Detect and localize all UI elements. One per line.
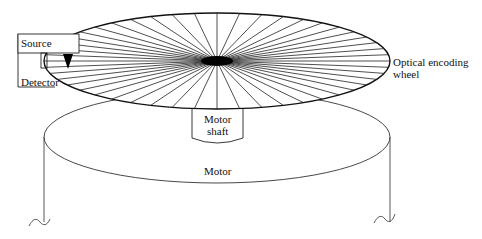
source-label: Source <box>21 37 52 49</box>
optical-encoding-wheel <box>44 13 390 109</box>
shaft-label-line1: Motor <box>204 113 232 125</box>
break-mark-left <box>29 219 50 226</box>
motor-label: Motor <box>204 165 232 177</box>
shaft-label-line2: shaft <box>207 125 228 137</box>
break-mark-right <box>374 214 395 223</box>
detector-label: Detector <box>21 76 59 88</box>
wheel-label-line2: wheel <box>393 68 419 80</box>
encoder-diagram <box>0 0 482 239</box>
wheel-hub <box>201 56 233 66</box>
wheel-label-line1: Optical encoding <box>393 56 468 68</box>
